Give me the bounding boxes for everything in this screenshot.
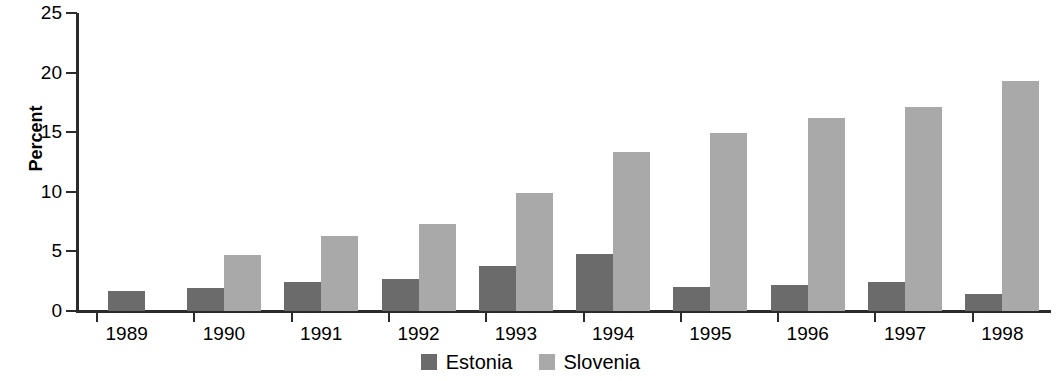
- chart-legend: EstoniaSlovenia: [0, 352, 1061, 372]
- bar-slovenia-1994: [613, 152, 650, 311]
- bar-estonia-1995: [673, 287, 710, 311]
- bar-estonia-1994: [576, 254, 613, 311]
- y-tick-mark: [66, 72, 77, 74]
- x-tick-mark: [583, 312, 585, 322]
- bar-slovenia-1997: [905, 107, 942, 311]
- y-tick-mark: [66, 310, 77, 312]
- x-tick-mark: [972, 312, 974, 322]
- x-tick-label: 1997: [850, 324, 960, 343]
- x-tick-label: 1996: [753, 324, 863, 343]
- bar-estonia-1992: [382, 279, 419, 311]
- x-tick-mark: [680, 312, 682, 322]
- x-tick-label: 1998: [947, 324, 1057, 343]
- x-tick-label: 1995: [655, 324, 765, 343]
- y-tick-label: 10: [22, 182, 62, 201]
- legend-item-slovenia: Slovenia: [539, 352, 641, 372]
- x-tick-mark: [291, 312, 293, 322]
- legend-label: Slovenia: [564, 352, 641, 372]
- bar-estonia-1996: [771, 285, 808, 311]
- bar-estonia-1997: [868, 282, 905, 311]
- y-tick-mark: [66, 250, 77, 252]
- x-tick-label: 1993: [461, 324, 571, 343]
- bar-estonia-1989: [108, 291, 145, 311]
- y-tick-label: 5: [22, 241, 62, 260]
- bar-slovenia-1990: [224, 255, 261, 311]
- bar-estonia-1991: [284, 282, 321, 311]
- legend-swatch-icon: [421, 354, 437, 370]
- x-tick-label: 1994: [558, 324, 668, 343]
- x-tick-label: 1990: [169, 324, 279, 343]
- y-tick-mark: [66, 12, 77, 14]
- legend-item-estonia: Estonia: [421, 352, 513, 372]
- bar-chart: Percent 0510152025 198919901991199219931…: [0, 0, 1061, 381]
- y-tick-label: 0: [22, 301, 62, 320]
- x-tick-mark: [777, 312, 779, 322]
- x-tick-mark: [388, 312, 390, 322]
- x-tick-mark: [485, 312, 487, 322]
- bar-slovenia-1998: [1002, 81, 1039, 311]
- bar-slovenia-1991: [321, 236, 358, 311]
- bar-slovenia-1996: [808, 118, 845, 311]
- x-tick-mark: [874, 312, 876, 322]
- y-tick-label: 25: [22, 3, 62, 22]
- legend-label: Estonia: [446, 352, 513, 372]
- bar-slovenia-1993: [516, 193, 553, 311]
- bar-estonia-1998: [965, 294, 1002, 311]
- bar-estonia-1993: [479, 266, 516, 311]
- x-tick-mark: [193, 312, 195, 322]
- x-tick-label: 1989: [72, 324, 182, 343]
- plot-area: [78, 13, 1051, 311]
- x-tick-label: 1992: [364, 324, 474, 343]
- y-tick-label: 20: [22, 63, 62, 82]
- bar-slovenia-1995: [710, 133, 747, 311]
- legend-swatch-icon: [539, 354, 555, 370]
- y-tick-mark: [66, 191, 77, 193]
- x-tick-mark: [96, 312, 98, 322]
- x-tick-label: 1991: [266, 324, 376, 343]
- bar-estonia-1990: [187, 288, 224, 311]
- y-tick-label: 15: [22, 122, 62, 141]
- bar-slovenia-1992: [419, 224, 456, 311]
- y-tick-mark: [66, 131, 77, 133]
